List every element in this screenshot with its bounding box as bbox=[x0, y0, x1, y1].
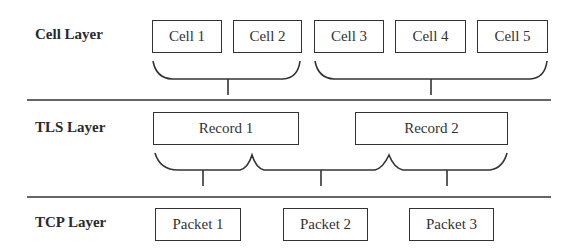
brace-records bbox=[155, 153, 507, 170]
record-box-2: Record 2 bbox=[355, 112, 508, 145]
brace-cells-1-2 bbox=[153, 61, 300, 79]
layer-label-cell: Cell Layer bbox=[35, 26, 103, 43]
brace-cells-3-5 bbox=[315, 61, 547, 79]
cell-box-3: Cell 3 bbox=[314, 20, 384, 53]
cell-box-2: Cell 2 bbox=[233, 20, 302, 53]
packet-box-1: Packet 1 bbox=[155, 208, 241, 241]
packet-box-3: Packet 3 bbox=[409, 208, 494, 241]
record-box-1: Record 1 bbox=[153, 112, 299, 145]
cell-box-1: Cell 1 bbox=[152, 20, 222, 53]
layer-label-tcp: TCP Layer bbox=[35, 214, 106, 231]
cell-box-5: Cell 5 bbox=[477, 20, 548, 53]
layer-label-tls: TLS Layer bbox=[35, 119, 105, 136]
packet-box-2: Packet 2 bbox=[283, 208, 368, 241]
cell-box-4: Cell 4 bbox=[395, 20, 466, 53]
